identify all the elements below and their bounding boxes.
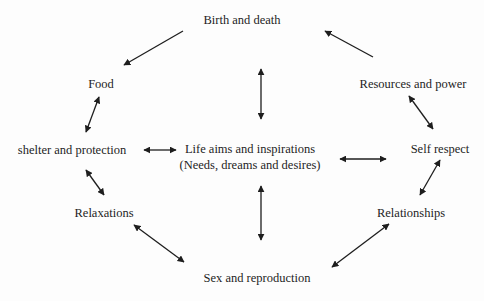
node-life-aims-title: Life aims and inspirations (180, 141, 321, 157)
node-shelter-and-protection: shelter and protection (18, 143, 126, 158)
arrow-sex-relationships (332, 224, 389, 267)
node-relaxations: Relaxations (74, 206, 133, 221)
node-self-respect: Self respect (411, 142, 470, 157)
node-relationships: Relationships (377, 206, 445, 221)
node-sex-and-reproduction: Sex and reproduction (204, 271, 311, 286)
node-birth-and-death: Birth and death (203, 13, 280, 28)
node-resources-and-power: Resources and power (360, 77, 467, 92)
arrow-resources-to-birth (325, 31, 373, 57)
arrow-birth-to-food (124, 31, 183, 65)
arrow-relaxations-sex (134, 225, 184, 262)
node-food: Food (88, 77, 114, 92)
arrow-shelter-relaxations (86, 170, 104, 195)
node-life-aims: Life aims and inspirations (Needs, dream… (180, 141, 321, 173)
arrow-relationships-selfrespect (420, 160, 440, 195)
node-life-aims-subtitle: (Needs, dreams and desires) (180, 157, 321, 173)
arrow-selfrespect-resources (409, 96, 433, 129)
arrow-food-shelter (86, 97, 99, 132)
